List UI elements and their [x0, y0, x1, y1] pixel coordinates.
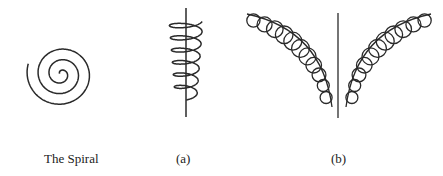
left-loop-chain: [247, 14, 332, 104]
spiral-figure: [27, 49, 89, 104]
figure-a-caption: (a): [176, 151, 190, 167]
loops-figure: [247, 13, 431, 118]
right-loop-chain: [346, 14, 431, 104]
diagram-canvas: [0, 0, 443, 176]
figure-b-caption: (b): [331, 151, 346, 167]
helix-figure: [169, 8, 202, 117]
spiral-caption: The Spiral: [44, 151, 99, 167]
spiral-curve: [27, 49, 89, 104]
loop-circle: [362, 48, 379, 65]
loop-circle: [299, 48, 316, 65]
